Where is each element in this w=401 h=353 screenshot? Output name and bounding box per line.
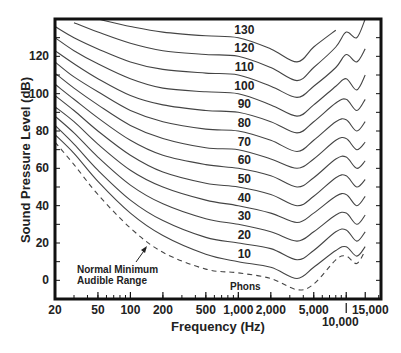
y-axis-title: Sound Pressure Level (dB) — [18, 77, 33, 243]
phon-curve-100 — [55, 38, 365, 116]
phon-label-110: 110 — [235, 60, 255, 74]
y-tick-label: 120 — [29, 49, 49, 63]
x-tick-label: 15,000 — [352, 303, 389, 317]
equal-loudness-chart: 130120110100908070605040302010 205010020… — [0, 0, 401, 353]
phons-label: Phons — [230, 281, 261, 292]
phon-label-60: 60 — [238, 153, 252, 167]
phon-label-50: 50 — [238, 172, 252, 186]
y-axis-ticks: 020406080100120 — [29, 19, 381, 299]
phon-label-30: 30 — [238, 209, 252, 223]
y-tick-label: 20 — [36, 236, 50, 250]
phon-curve-10 — [55, 135, 365, 279]
x-tick-label: 500 — [196, 303, 216, 317]
phon-label-40: 40 — [238, 191, 252, 205]
y-tick-label: 0 — [42, 273, 49, 287]
phon-curve-30 — [55, 116, 365, 241]
phon-label-120: 120 — [234, 41, 254, 55]
phon-label-10: 10 — [238, 247, 252, 261]
phon-label-80: 80 — [238, 116, 252, 130]
phon-label-90: 90 — [238, 97, 252, 111]
loudness-curves — [55, 19, 365, 290]
phon-label-100: 100 — [234, 79, 254, 93]
phon-curve-120 — [74, 19, 365, 81]
x-tick-label: 20 — [48, 303, 62, 317]
phon-label-70: 70 — [238, 135, 252, 149]
x-tick-label: 50 — [91, 303, 105, 317]
phon-label-20: 20 — [238, 228, 252, 242]
y-tick-label: 60 — [36, 161, 50, 175]
annotation-minimum-audible-line2: Audible Range — [77, 275, 147, 286]
x-tick-label: 10,000 — [322, 315, 359, 329]
annotation-minimum-audible-line1: Normal Minimum — [77, 264, 158, 275]
x-axis-title: Frequency (Hz) — [171, 319, 265, 334]
plot-frame — [55, 19, 381, 299]
y-tick-label: 40 — [36, 199, 50, 213]
x-tick-label: 100 — [120, 303, 140, 317]
x-tick-label: 2,000 — [256, 303, 286, 317]
phon-curve-110 — [55, 27, 365, 98]
phon-curve-50 — [55, 96, 365, 206]
phon-label-130: 130 — [234, 23, 254, 37]
x-tick-label: 1,000 — [223, 303, 253, 317]
phon-curve-130 — [98, 19, 336, 62]
annotation-arrow — [136, 246, 147, 262]
x-tick-label: 200 — [153, 303, 173, 317]
phon-curve-40 — [55, 107, 365, 223]
y-tick-label: 80 — [36, 124, 50, 138]
